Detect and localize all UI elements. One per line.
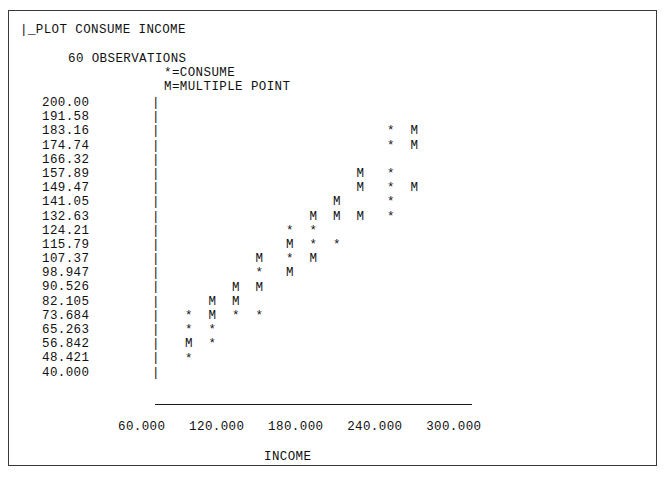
consume-point-mark: * [387, 210, 395, 224]
consume-point-mark: * [310, 238, 318, 252]
consume-point-mark: * [185, 352, 193, 366]
multiple-point-mark: M [209, 309, 217, 323]
consume-point-mark: * [256, 266, 264, 280]
multiple-point-mark: M [232, 281, 240, 295]
consume-point-mark: * [286, 252, 294, 266]
multiple-point-mark: M [310, 210, 318, 224]
multiple-point-mark: M [411, 139, 419, 153]
consume-point-mark: * [256, 309, 264, 323]
command-line: |_PLOT CONSUME INCOME [20, 23, 186, 37]
legend-consume: *=CONSUME [164, 66, 235, 80]
consume-point-mark: * [209, 337, 217, 351]
multiple-point-mark: M [232, 295, 240, 309]
multiple-point-mark: M [411, 181, 419, 195]
x-axis-line [155, 404, 472, 405]
consume-point-mark: * [387, 139, 395, 153]
multiple-point-mark: M [286, 238, 294, 252]
plot-listing: |_PLOT CONSUME INCOME 60 OBSERVATIONS *=… [0, 0, 667, 478]
consume-point-mark: * [333, 238, 341, 252]
consume-point-mark: * [387, 195, 395, 209]
plot-area: *M*MM*M*MM*MMM***M**M*M*MMMMM*M****M** [0, 96, 667, 396]
consume-point-mark: * [310, 224, 318, 238]
multiple-point-mark: M [256, 252, 264, 266]
consume-point-mark: * [286, 224, 294, 238]
consume-point-mark: * [185, 323, 193, 337]
consume-point-mark: * [209, 323, 217, 337]
consume-point-mark: * [185, 309, 193, 323]
x-axis-title: INCOME [264, 450, 311, 464]
multiple-point-mark: M [411, 124, 419, 138]
multiple-point-mark: M [357, 181, 365, 195]
multiple-point-mark: M [310, 252, 318, 266]
consume-point-mark: * [232, 309, 240, 323]
consume-point-mark: * [387, 167, 395, 181]
multiple-point-mark: M [357, 210, 365, 224]
multiple-point-mark: M [185, 337, 193, 351]
legend-multiple-point: M=MULTIPLE POINT [164, 80, 290, 94]
multiple-point-mark: M [357, 167, 365, 181]
x-axis-labels: 60.000 120.000 180.000 240.000 300.000 [118, 420, 481, 434]
observations-count: 60 OBSERVATIONS [68, 52, 187, 66]
multiple-point-mark: M [209, 295, 217, 309]
multiple-point-mark: M [333, 195, 341, 209]
multiple-point-mark: M [286, 266, 294, 280]
multiple-point-mark: M [333, 210, 341, 224]
consume-point-mark: * [387, 181, 395, 195]
multiple-point-mark: M [256, 281, 264, 295]
consume-point-mark: * [387, 124, 395, 138]
